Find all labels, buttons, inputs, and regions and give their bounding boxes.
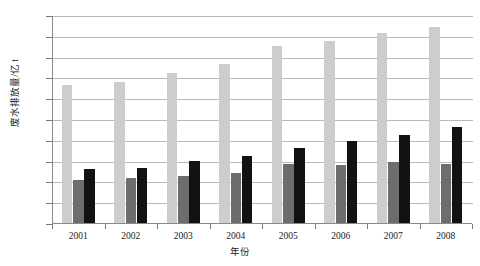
- y-tick-mark: [46, 141, 52, 142]
- x-tick-label-2004: 2004: [206, 231, 266, 241]
- gridline: [53, 78, 473, 79]
- x-tick-label-2005: 2005: [258, 231, 318, 241]
- x-tick-mark-origin: [52, 224, 53, 229]
- bar-series-2-2007[interactable]: [388, 162, 399, 223]
- bar-series-2-2008[interactable]: [441, 164, 452, 223]
- bar-series-2-2001[interactable]: [73, 180, 84, 223]
- bar-series-2-2003[interactable]: [178, 176, 189, 223]
- bar-series-1-2007[interactable]: [377, 33, 388, 223]
- x-tick-mark: [315, 224, 316, 229]
- x-tick-label-2001: 2001: [48, 231, 108, 241]
- x-tick-mark: [420, 224, 421, 229]
- chart-title: [150, 0, 370, 4]
- y-tick-mark: [46, 99, 52, 100]
- y-tick-mark: [46, 162, 52, 163]
- bar-series-3-2002[interactable]: [137, 168, 148, 223]
- x-axis-title: 年份: [0, 244, 480, 258]
- x-tick-mark: [367, 224, 368, 229]
- gridline: [53, 37, 473, 38]
- bar-series-1-2005[interactable]: [272, 46, 283, 223]
- y-tick-mark: [46, 78, 52, 79]
- plot-area: [52, 16, 472, 224]
- gridline: [53, 58, 473, 59]
- x-tick-label-2008: 2008: [416, 231, 476, 241]
- x-tick-label-2003: 2003: [153, 231, 213, 241]
- x-tick-mark: [472, 224, 473, 229]
- bar-series-2-2004[interactable]: [231, 173, 242, 223]
- x-tick-mark: [262, 224, 263, 229]
- bar-series-3-2001[interactable]: [84, 169, 95, 223]
- y-tick-mark: [46, 58, 52, 59]
- bar-series-1-2004[interactable]: [219, 64, 230, 223]
- bar-series-3-2004[interactable]: [242, 156, 253, 223]
- bar-series-3-2005[interactable]: [294, 148, 305, 223]
- bar-series-2-2005[interactable]: [283, 164, 294, 224]
- bar-series-1-2006[interactable]: [324, 41, 335, 223]
- bar-series-3-2006[interactable]: [347, 141, 358, 223]
- bar-series-1-2001[interactable]: [62, 85, 73, 224]
- y-tick-mark: [46, 182, 52, 183]
- gridline: [53, 16, 473, 17]
- x-tick-mark: [105, 224, 106, 229]
- bar-series-1-2003[interactable]: [167, 73, 178, 223]
- y-tick-mark: [46, 16, 52, 17]
- y-tick-mark: [46, 37, 52, 38]
- y-tick-mark: [46, 120, 52, 121]
- bar-series-1-2008[interactable]: [429, 27, 440, 223]
- bar-series-2-2002[interactable]: [126, 178, 137, 223]
- y-axis-title: 废水排放量/亿 t: [7, 53, 21, 133]
- y-tick-mark: [46, 203, 52, 204]
- x-tick-mark: [210, 224, 211, 229]
- x-tick-label-2006: 2006: [311, 231, 371, 241]
- chart-container: 废水排放量/亿 t 年份 100150200250300350400450500…: [0, 0, 480, 266]
- bar-series-3-2007[interactable]: [399, 135, 410, 223]
- bar-series-3-2008[interactable]: [452, 127, 463, 223]
- x-tick-mark: [157, 224, 158, 229]
- bar-series-1-2002[interactable]: [114, 82, 125, 223]
- bar-series-2-2006[interactable]: [336, 165, 347, 223]
- x-tick-label-2007: 2007: [363, 231, 423, 241]
- bar-series-3-2003[interactable]: [189, 161, 200, 223]
- x-tick-label-2002: 2002: [101, 231, 161, 241]
